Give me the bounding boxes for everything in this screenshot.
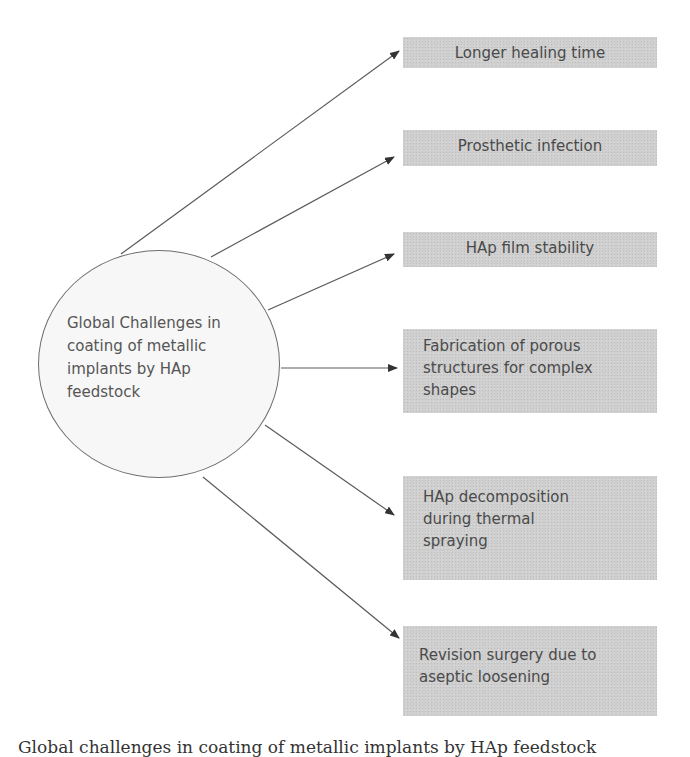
center-label-line: implants by HAp [67,358,277,381]
center-label-line: feedstock [67,381,277,404]
arrow-to-revision-surgery [203,477,399,638]
challenge-box-hap-film-stability: HAp film stability [403,232,657,267]
challenge-box-prosthetic-infection: Prosthetic infection [403,130,657,166]
center-node-label: Global Challenges in coating of metallic… [67,312,277,404]
arrow-to-longer-healing-time [121,51,399,254]
center-label-line: coating of metallic [67,335,277,358]
challenge-box-fabrication-porous-structures: Fabrication of porous structures for com… [403,329,657,413]
arrow-to-hap-film-stability [268,254,394,310]
center-label-line: Global Challenges in [67,312,277,335]
arrow-to-prosthetic-infection [211,157,394,257]
challenge-box-longer-healing-time: Longer healing time [403,37,657,68]
figure-caption: Global challenges in coating of metallic… [18,737,688,757]
challenge-box-revision-surgery: Revision surgery due to aseptic loosenin… [403,626,657,716]
arrow-to-hap-decomposition [265,425,394,515]
challenge-box-hap-decomposition: HAp decomposition during thermal sprayin… [403,476,657,580]
